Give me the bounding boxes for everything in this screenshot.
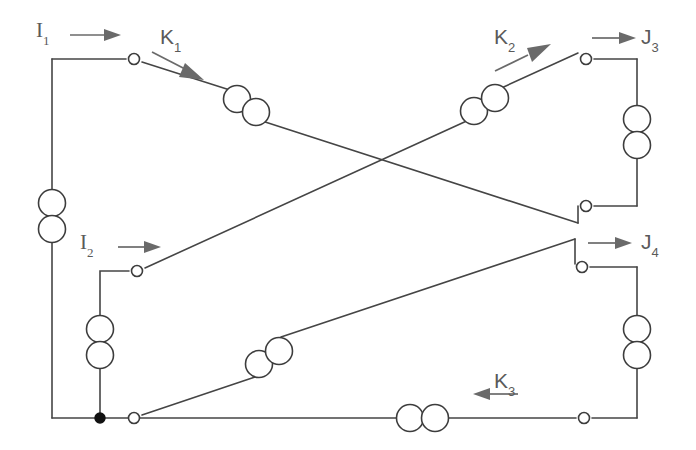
terminal-j4[interactable]: [577, 262, 588, 273]
coil-left-source-upper: [39, 190, 66, 217]
coil-k2-diagonal-second: [482, 85, 509, 112]
terminal-bottom-left[interactable]: [129, 413, 140, 424]
label-k2: K2: [494, 26, 515, 50]
coil-j4-right-lower: [624, 342, 651, 369]
terminal-group: [95, 54, 592, 424]
coil-group: [39, 85, 651, 432]
coil-lower-diagonal-second: [266, 338, 293, 365]
coil-k3-bottom-left: [397, 405, 424, 432]
wire-bottom-diagonal-b: [281, 239, 575, 337]
coil-k1-diagonal-second: [243, 99, 270, 126]
label-k2-base: K: [494, 25, 508, 48]
label-i2: I2: [80, 232, 94, 255]
wire-i2-diagonal-a: [145, 119, 471, 268]
label-j4: J4: [641, 231, 659, 255]
k1-arrow: [152, 52, 204, 80]
circuit-schematic-canvas: [0, 0, 696, 450]
label-j3-base: J: [641, 25, 652, 48]
coil-j4-right-upper: [624, 316, 651, 343]
label-i1-sub: 1: [43, 33, 50, 48]
label-j3: J3: [641, 26, 659, 50]
i1-arrow: [70, 29, 121, 41]
circuit-diagram: I1 K1 K2 J3 I2 J4 K3: [0, 0, 696, 450]
terminal-i2[interactable]: [132, 266, 143, 277]
label-k3: K3: [494, 370, 515, 394]
coil-left-source-lower: [39, 216, 66, 243]
label-i2-sub: 2: [87, 245, 94, 260]
label-j3-sub: 3: [652, 40, 659, 55]
node-bottom-junction: [95, 413, 105, 423]
label-k1: K1: [160, 26, 181, 50]
i2-arrow: [118, 241, 161, 253]
wire-bottom-diagonal-a: [142, 377, 255, 415]
coil-k3-bottom-right: [422, 405, 449, 432]
j4-arrow: [588, 237, 632, 249]
j3-arrow: [592, 32, 636, 44]
label-k2-sub: 2: [508, 40, 515, 55]
terminal-right-mid[interactable]: [581, 201, 592, 212]
coil-j3-right-upper: [624, 106, 651, 133]
wire-k1-diagonal-b: [259, 120, 578, 223]
label-i2-base: I: [80, 230, 87, 254]
label-j4-sub: 4: [652, 245, 659, 260]
wire-group: [52, 53, 637, 418]
coil-i2-branch-upper: [87, 316, 114, 343]
label-i1-base: I: [36, 18, 43, 42]
label-k1-sub: 1: [174, 40, 181, 55]
terminal-j3[interactable]: [581, 54, 592, 65]
label-j4-base: J: [641, 230, 652, 253]
coil-i2-branch-lower: [87, 342, 114, 369]
label-k1-base: K: [160, 25, 174, 48]
label-k3-base: K: [494, 369, 508, 392]
label-i1: I1: [36, 20, 50, 43]
label-k3-sub: 3: [508, 384, 515, 399]
wire-i2-diagonal-b: [497, 53, 578, 90]
coil-j3-right-lower: [624, 132, 651, 159]
terminal-bottom-right[interactable]: [579, 413, 590, 424]
terminal-i1[interactable]: [129, 54, 140, 65]
